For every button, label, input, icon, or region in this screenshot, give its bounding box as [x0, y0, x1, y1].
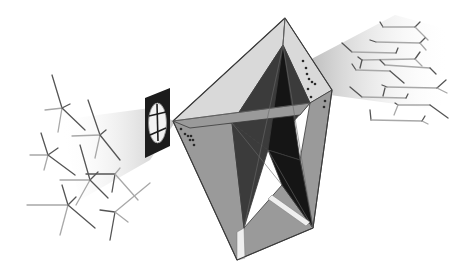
- data-dot: [323, 106, 326, 109]
- data-dot: [306, 73, 309, 76]
- molecule-bond: [41, 133, 48, 155]
- molecule-bond: [68, 205, 95, 228]
- molecule-bond: [394, 105, 398, 115]
- data-dot: [190, 135, 193, 138]
- data-dot: [180, 128, 183, 131]
- data-dot: [302, 60, 305, 63]
- molecule-bond: [62, 104, 70, 108]
- molecule-bond: [371, 120, 422, 121]
- data-dot: [305, 67, 308, 70]
- molecule-bond: [68, 197, 76, 205]
- bottom-left-sliver: [237, 228, 245, 260]
- filter-spoke: [157, 104, 158, 141]
- data-dot: [189, 139, 192, 142]
- crystal-filter-illustration: [0, 0, 470, 271]
- data-dot: [324, 100, 327, 103]
- molecule-bond: [45, 108, 63, 110]
- data-dot: [311, 81, 314, 84]
- molecule-bond: [48, 148, 58, 155]
- illustration-canvas: [0, 0, 470, 271]
- data-dot: [308, 78, 311, 81]
- data-dot: [184, 133, 187, 136]
- molecule-bond: [370, 110, 371, 120]
- molecule-bond: [110, 212, 115, 240]
- data-dot: [192, 139, 195, 142]
- data-dot: [314, 83, 317, 86]
- data-dot: [193, 144, 196, 147]
- molecule-bond: [422, 121, 428, 124]
- molecule-bond: [100, 210, 115, 212]
- left-face: [173, 121, 244, 260]
- molecule-bond: [422, 116, 425, 121]
- molecule-bond: [115, 183, 150, 212]
- data-dot: [307, 88, 310, 91]
- filter-window-icon: [145, 88, 170, 158]
- molecule-bond: [62, 185, 68, 205]
- ordered-molecule: [370, 110, 428, 124]
- molecule-bond: [115, 212, 128, 222]
- data-dot: [187, 135, 190, 138]
- molecule-bond: [44, 155, 48, 170]
- data-dot: [310, 96, 313, 99]
- crystal-polyhedron: [173, 18, 332, 260]
- disordered-molecule: [100, 183, 150, 240]
- molecule-bond: [52, 75, 62, 108]
- molecule-bond: [60, 205, 68, 235]
